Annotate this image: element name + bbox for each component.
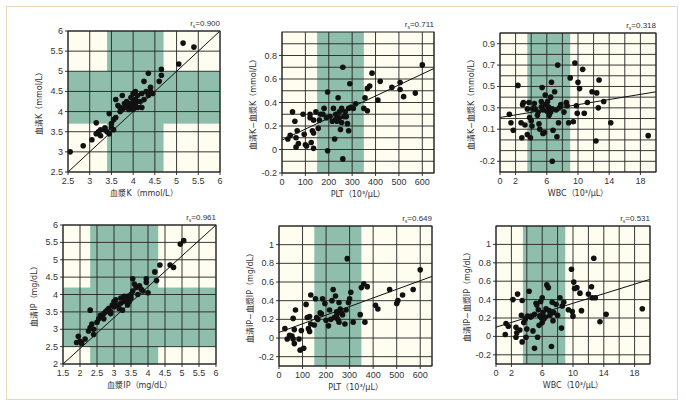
y-tick-label: 0	[272, 145, 277, 155]
data-point	[546, 285, 552, 291]
x-tick-label: 0	[276, 370, 281, 380]
y-tick-label: 0.6	[261, 277, 274, 287]
data-point	[581, 110, 587, 116]
data-point	[346, 128, 352, 134]
data-point	[157, 262, 163, 268]
data-point	[555, 312, 561, 318]
data-point	[290, 336, 296, 342]
data-point	[344, 114, 350, 120]
data-point	[87, 307, 93, 313]
data-point	[559, 325, 565, 331]
data-point	[311, 146, 317, 152]
data-point	[332, 136, 338, 142]
data-point	[577, 86, 583, 92]
x-tick-label: 1.5	[57, 368, 70, 378]
data-point	[539, 85, 545, 91]
data-point	[575, 79, 581, 85]
y-tick-label: 0.9	[482, 39, 495, 49]
y-tick-label: 0.3	[482, 103, 495, 113]
data-point	[574, 285, 580, 291]
x-tick-label: 4	[131, 176, 136, 186]
data-point	[101, 316, 107, 322]
data-point	[108, 309, 114, 315]
data-point	[645, 133, 651, 139]
y-tick-label: 5.5	[45, 237, 58, 247]
data-point	[299, 328, 305, 334]
y-tick-label: 4.5	[50, 86, 63, 96]
x-tick-label: 400	[366, 370, 381, 380]
y-tick-label: 5	[53, 255, 58, 265]
correlation-label: rs=0.318	[626, 21, 656, 31]
data-point	[350, 319, 356, 325]
data-point	[595, 105, 601, 111]
data-point	[319, 311, 325, 317]
data-point	[139, 105, 145, 111]
x-tick-label: 500	[391, 177, 406, 187]
correlation-label: rs=0.531	[620, 214, 650, 224]
data-point	[375, 97, 381, 103]
data-point	[152, 269, 158, 275]
data-point	[91, 326, 97, 332]
data-point	[124, 99, 130, 105]
data-point	[113, 115, 119, 121]
data-point	[342, 321, 348, 327]
data-point	[377, 79, 383, 85]
data-point	[523, 335, 529, 341]
x-tick-label: 2.5	[91, 368, 104, 378]
data-point	[574, 103, 580, 109]
x-tick-label: 3	[87, 176, 92, 186]
correlation-label: rs=0.711	[405, 20, 435, 30]
y-axis-label: 血清K（mmol/L）	[34, 68, 44, 135]
y-tick-label: 0.4	[478, 295, 491, 305]
x-tick-label: 2	[513, 176, 518, 186]
x-tick-label: 2	[509, 368, 514, 378]
y-tick-label: 6	[58, 26, 63, 36]
data-point	[357, 312, 363, 318]
data-point	[369, 70, 375, 76]
x-tick-label: 2.5	[62, 176, 75, 186]
y-tick-label: 0.1	[482, 124, 495, 134]
data-point	[530, 328, 536, 334]
data-point	[327, 307, 333, 313]
data-point	[579, 308, 585, 314]
data-point	[296, 141, 302, 147]
y-axis-label: 血清IP（mg/dL）	[29, 262, 39, 326]
data-point	[524, 326, 530, 332]
data-point	[567, 75, 573, 81]
data-point	[307, 329, 313, 335]
x-tick-label: 18	[635, 176, 645, 186]
data-point	[532, 346, 538, 352]
data-point	[522, 122, 528, 128]
data-point	[98, 133, 104, 139]
data-point	[156, 79, 162, 85]
data-point	[313, 296, 319, 302]
y-tick-label: 3.5	[50, 127, 63, 137]
data-point	[561, 109, 567, 115]
data-point	[410, 287, 416, 293]
correlation-label: rs=0.900	[190, 19, 220, 29]
data-point	[532, 101, 538, 107]
data-point	[525, 106, 531, 112]
data-point	[106, 131, 112, 137]
data-point	[135, 292, 141, 298]
data-point	[89, 321, 95, 327]
data-point	[82, 336, 88, 342]
data-point	[301, 345, 307, 351]
y-tick-label: 0.6	[478, 276, 491, 286]
data-point	[176, 61, 182, 67]
data-point	[317, 117, 323, 123]
data-point	[572, 60, 578, 66]
scatter-panels: 2.533.544.555.562.533.544.555.56rs=0.900…	[0, 0, 686, 406]
data-point	[561, 300, 567, 306]
data-point	[296, 336, 302, 342]
data-point	[507, 111, 513, 117]
data-point	[119, 93, 125, 99]
data-point	[550, 128, 556, 134]
data-point	[589, 284, 595, 290]
data-point	[348, 289, 354, 295]
data-point	[321, 106, 327, 112]
data-point	[171, 265, 177, 271]
y-tick-label: 4	[58, 107, 63, 117]
y-tick-label: 0.8	[264, 51, 277, 61]
x-tick-label: 200	[321, 177, 336, 187]
